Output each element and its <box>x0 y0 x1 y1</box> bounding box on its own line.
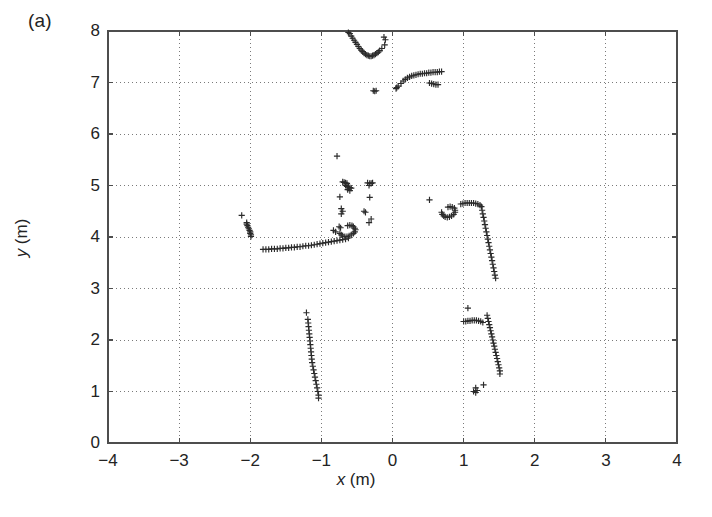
x-tick-label: 3 <box>601 451 610 471</box>
y-tick-label: 4 <box>78 227 100 247</box>
x-tick-label: 2 <box>530 451 539 471</box>
x-axis-label: x (m) <box>0 470 712 490</box>
y-tick-label: 0 <box>78 433 100 453</box>
y-tick-label: 2 <box>78 330 100 350</box>
y-tick-label: 7 <box>78 73 100 93</box>
y-tick-label: 3 <box>78 279 100 299</box>
y-tick-label: 6 <box>78 124 100 144</box>
x-tick-label: −3 <box>169 451 188 471</box>
figure-panel: (a) −4−3−2−101234 012345678 x (m) y (m) <box>0 0 712 517</box>
y-tick-label: 8 <box>78 21 100 41</box>
y-tick-label: 5 <box>78 176 100 196</box>
x-tick-label: 0 <box>388 451 397 471</box>
x-tick-label: −1 <box>312 451 331 471</box>
x-tick-label: −2 <box>241 451 260 471</box>
x-tick-label: 4 <box>672 451 681 471</box>
y-tick-label: 1 <box>78 382 100 402</box>
x-tick-label: 1 <box>459 451 468 471</box>
x-tick-label: −4 <box>98 451 117 471</box>
grid-lines <box>108 31 677 443</box>
scatter-plot-canvas <box>0 0 712 517</box>
y-axis-label: y (m) <box>12 198 32 278</box>
